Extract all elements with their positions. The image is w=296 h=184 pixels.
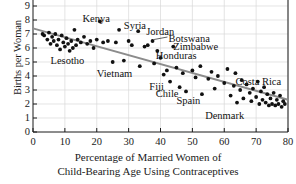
x-tick-label: 0: [21, 137, 45, 148]
annotation-honduras: Honduras: [156, 51, 197, 62]
data-point: [106, 39, 110, 43]
data-point: [234, 71, 238, 75]
data-point: [88, 39, 92, 43]
data-point: [216, 74, 220, 78]
data-point: [264, 101, 268, 105]
data-point: [57, 38, 61, 42]
x-tick-label: 30: [117, 137, 141, 148]
data-point: [206, 77, 210, 81]
data-point: [254, 95, 258, 99]
data-point: [283, 102, 287, 106]
data-point: [198, 64, 202, 68]
data-point: [92, 46, 96, 50]
data-point: [280, 105, 284, 109]
data-point: [66, 42, 70, 46]
annotation-costa-rica: Costa Rica: [235, 77, 281, 88]
data-point: [275, 98, 279, 102]
data-point: [213, 87, 217, 91]
y-tick-label: 4: [12, 71, 30, 82]
data-point: [127, 39, 131, 43]
data-point: [175, 66, 179, 70]
data-point: [82, 35, 86, 39]
data-point: [248, 91, 252, 95]
data-point: [50, 35, 54, 39]
data-point: [184, 90, 188, 94]
data-point: [151, 39, 155, 43]
data-point: [45, 38, 49, 42]
data-point: [85, 42, 89, 46]
data-point: [222, 81, 226, 85]
x-axis-title: Percentage of Married Women of Child-Bea…: [0, 150, 296, 178]
data-point: [200, 92, 204, 96]
x-axis-title-line-2: Child-Bearing Age Using Contraceptives: [0, 164, 296, 178]
x-axis-title-line-1: Percentage of Married Women of: [0, 150, 296, 164]
y-tick-label: 9: [12, 1, 30, 12]
x-tick-label: 70: [244, 137, 268, 148]
data-point: [63, 45, 67, 49]
data-point: [238, 88, 242, 92]
data-point: [79, 41, 83, 45]
y-tick-label: 7: [12, 29, 30, 40]
y-tick-label: 2: [12, 99, 30, 110]
data-point: [261, 98, 265, 102]
data-point: [162, 73, 166, 77]
data-point: [259, 90, 263, 94]
data-point: [65, 36, 69, 40]
data-point: [47, 31, 51, 35]
annotation-chile: Chile: [156, 89, 179, 100]
data-point: [269, 97, 273, 101]
x-tick-label: 80: [276, 137, 296, 148]
data-point: [272, 91, 276, 95]
y-tick-label: 8: [12, 15, 30, 26]
data-point: [165, 69, 169, 73]
annotation-spain: Spain: [176, 96, 200, 107]
data-point: [181, 71, 185, 75]
data-point: [76, 38, 80, 42]
data-point: [111, 60, 115, 64]
data-point: [74, 43, 78, 47]
data-point: [117, 28, 121, 32]
data-point: [226, 67, 230, 71]
data-point: [61, 41, 65, 45]
data-point: [101, 41, 105, 45]
data-point: [265, 92, 269, 96]
data-point: [60, 34, 64, 38]
data-point: [210, 70, 214, 74]
y-tick-label: 3: [12, 85, 30, 96]
data-point: [146, 43, 150, 47]
annotation-kenya: Kenya: [82, 14, 109, 25]
x-tick-label: 60: [212, 137, 236, 148]
data-point: [190, 69, 194, 73]
data-point: [249, 99, 253, 103]
data-point: [277, 102, 281, 106]
data-point: [235, 101, 239, 105]
data-point: [69, 39, 73, 43]
data-point: [42, 34, 46, 38]
data-point: [58, 48, 62, 52]
data-point: [257, 102, 261, 106]
data-point: [95, 38, 99, 42]
x-axis-tick-labels: 01020304050607080: [0, 137, 296, 151]
data-point: [73, 28, 77, 32]
data-point: [122, 59, 126, 63]
annotation-syria: Syria: [124, 21, 146, 32]
data-point: [152, 62, 156, 66]
data-point: [71, 46, 75, 50]
data-point: [130, 43, 134, 47]
data-point: [52, 39, 56, 43]
x-tick-label: 10: [53, 137, 77, 148]
y-tick-label: 6: [12, 43, 30, 54]
x-tick-label: 50: [180, 137, 204, 148]
data-point: [55, 43, 59, 47]
scatter-plot-figure: Births per Woman 012345678910 0102030405…: [0, 0, 296, 184]
data-point: [168, 80, 172, 84]
y-tick-label: 5: [12, 57, 30, 68]
y-tick-label: 1: [12, 113, 30, 124]
data-point: [49, 42, 53, 46]
data-point: [241, 97, 245, 101]
data-point: [278, 94, 282, 98]
y-tick-label: 0: [12, 127, 30, 138]
data-point: [229, 94, 233, 98]
data-point: [68, 49, 72, 53]
data-point: [138, 64, 142, 68]
